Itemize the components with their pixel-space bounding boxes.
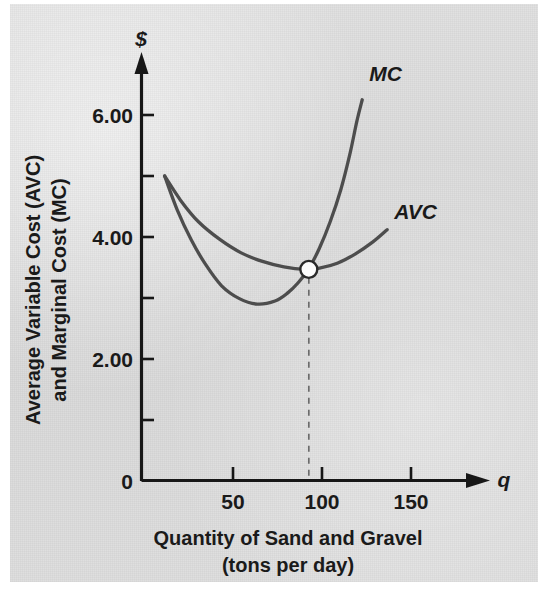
y-axis-title: Average Variable Cost (AVC) and Marginal… <box>22 155 70 425</box>
y-tick-label-6: 6.00 <box>92 104 133 127</box>
x-tick-label-100: 100 <box>304 490 339 513</box>
y-tick-label-2: 2.00 <box>92 348 133 371</box>
avc-mc-chart: 6.00 4.00 2.00 0 50 100 150 $ q MC AVC A… <box>0 0 549 604</box>
x-axis-title-line2: (tons per day) <box>222 554 354 576</box>
x-tick-label-150: 150 <box>393 490 428 513</box>
origin-label: 0 <box>121 470 133 493</box>
y-tick-label-4: 4.00 <box>92 226 133 249</box>
y-axis-title-line1: Average Variable Cost (AVC) <box>22 155 44 425</box>
x-axis-symbol-q: q <box>498 468 511 491</box>
y-axis-title-line2: and Marginal Cost (MC) <box>48 178 70 401</box>
x-axis-title: Quantity of Sand and Gravel (tons per da… <box>154 527 423 576</box>
x-axis-title-line1: Quantity of Sand and Gravel <box>154 527 423 549</box>
x-axis-ticks <box>233 467 411 481</box>
avc-curve-label: AVC <box>393 200 438 223</box>
y-axis-symbol-dollar: $ <box>134 27 147 50</box>
figure-container: 6.00 4.00 2.00 0 50 100 150 $ q MC AVC A… <box>0 0 549 604</box>
mc-curve <box>165 100 363 304</box>
x-axis-arrowhead <box>466 473 490 488</box>
avc-minimum-marker <box>300 261 317 278</box>
mc-curve-label: MC <box>369 62 402 85</box>
y-axis-ticks <box>142 115 155 420</box>
x-tick-label-50: 50 <box>221 490 244 513</box>
y-axis-arrowhead <box>135 52 149 74</box>
